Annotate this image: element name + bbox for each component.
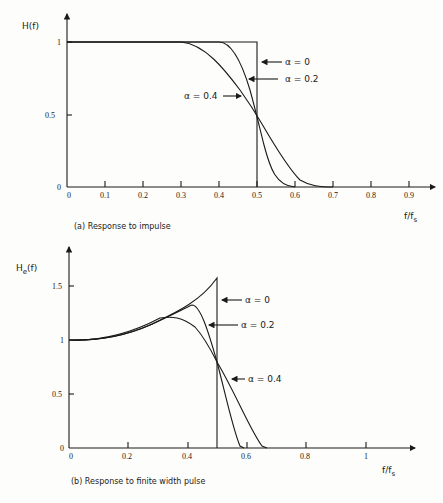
svg-text:0.2: 0.2 (122, 452, 132, 461)
curve-b-alpha-0 (69, 278, 217, 448)
x-axis-label-a: f/fs (404, 211, 417, 224)
svg-text:0.5: 0.5 (252, 191, 262, 200)
y-axis-label-b: He(f) (16, 263, 37, 276)
svg-text:0.4: 0.4 (182, 452, 192, 461)
annotation-alpha-0-a: α = 0 (285, 57, 310, 67)
y-tick-0.5: 0.5 (45, 111, 55, 120)
svg-text:0: 0 (69, 452, 73, 461)
svg-text:0.8: 0.8 (366, 191, 376, 200)
curve-b-alpha-0.2 (69, 305, 244, 448)
svg-text:1: 1 (364, 452, 368, 461)
annotation-alpha-0.2-b: α = 0.2 (241, 320, 275, 330)
svg-text:0.9: 0.9 (404, 191, 414, 200)
svg-text:0.8: 0.8 (300, 452, 310, 461)
x-axis-label-b: f/fs (382, 465, 395, 478)
x-tick-labels-a: 0 0.1 0.2 0.3 0.4 0.5 0.6 0.7 0.8 0.9 (67, 191, 414, 200)
x-ticks-b (128, 442, 366, 448)
chart-a (67, 14, 435, 187)
x-tick-labels-b: 0 0.2 0.4 0.6 0.8 1 (69, 452, 368, 461)
labels-b: He(f) 1.5 1 0.5 0 0 0.2 0.4 0.6 0.8 1 f/… (16, 263, 395, 486)
annotation-alpha-0.4-a: α = 0.4 (184, 91, 218, 101)
svg-text:0.4: 0.4 (214, 191, 224, 200)
y-tick-0: 0 (57, 183, 61, 192)
figure: H(f) 1 0.5 0 0 0.1 0.2 0.3 0.4 0.5 0.6 0… (0, 0, 443, 503)
svg-text:0.6: 0.6 (241, 452, 251, 461)
y-tick-1: 1 (57, 38, 61, 47)
svg-text:0.2: 0.2 (138, 191, 148, 200)
caption-a: (a) Response to impulse (74, 222, 171, 231)
chart-b (69, 247, 415, 448)
curve-b-alpha-0.4 (69, 317, 267, 448)
y-axis-label-a: H(f) (22, 21, 39, 31)
svg-text:0.6: 0.6 (290, 191, 300, 200)
annotation-alpha-0-b: α = 0 (245, 295, 270, 305)
curve-a-alpha-0 (67, 42, 257, 187)
caption-b: (b) Response to finite width pulse (71, 477, 205, 486)
labels-a: H(f) 1 0.5 0 0 0.1 0.2 0.3 0.4 0.5 0.6 0… (22, 21, 417, 231)
svg-text:0.1: 0.1 (100, 191, 110, 200)
annotation-alpha-0.4-b: α = 0.4 (248, 374, 282, 384)
y-tick-0.5: 0.5 (52, 390, 62, 399)
svg-text:0: 0 (67, 191, 71, 200)
curve-a-alpha-0.2 (67, 42, 295, 187)
svg-text:0.3: 0.3 (176, 191, 186, 200)
y-tick-1.5: 1.5 (52, 282, 62, 291)
y-tick-1: 1 (60, 336, 64, 345)
annotation-alpha-0.2-a: α = 0.2 (285, 74, 319, 84)
y-tick-0: 0 (60, 444, 64, 453)
svg-text:0.7: 0.7 (328, 191, 338, 200)
